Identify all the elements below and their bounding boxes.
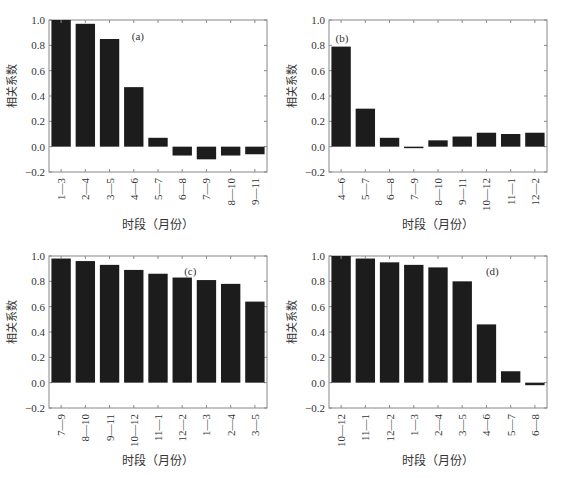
y-tick-label: 0.6 (31, 301, 45, 313)
bar (477, 133, 496, 147)
y-tick-label: 1.0 (31, 14, 45, 26)
chart-panel-b: 1.00.80.60.40.20.0−0.24—65—76—87—98—109—… (280, 0, 561, 240)
bar (356, 109, 375, 147)
y-tick-label: 0.4 (31, 326, 45, 338)
bar (173, 278, 192, 383)
x-tick-label: 4—6 (128, 178, 140, 201)
bar (356, 259, 375, 383)
y-tick-label: 0.8 (311, 275, 325, 287)
x-tick-label: 11—1 (152, 414, 164, 441)
x-tick-label: 4—6 (335, 178, 347, 201)
bar (148, 138, 167, 147)
x-tick-label: 9—11 (104, 414, 116, 441)
y-tick-label: −0.2 (305, 166, 325, 178)
chart-panel-c: 1.00.80.60.40.20.0−0.27—98—109—1110—1211… (0, 236, 280, 478)
panel-label: (c) (184, 265, 197, 278)
x-tick-label: 7—9 (200, 178, 212, 201)
bar (477, 324, 496, 382)
y-tick-label: 0.4 (311, 90, 325, 102)
x-tick-label: 2—4 (79, 178, 91, 201)
x-tick-label: 12—2 (176, 414, 188, 442)
bar (453, 137, 472, 147)
y-tick-label: 1.0 (311, 14, 325, 26)
y-tick-label: 1.0 (311, 250, 325, 262)
y-axis-label: 相关系数 (285, 64, 298, 108)
y-tick-label: 0.8 (311, 39, 325, 51)
x-tick-label: 12—2 (529, 178, 541, 206)
bar (245, 147, 264, 155)
x-tick-label: 1—3 (200, 414, 212, 437)
x-tick-label: 1—3 (408, 414, 420, 437)
x-tick-label: 8—10 (432, 178, 444, 206)
x-tick-label: 11—1 (359, 414, 371, 441)
bar (331, 47, 350, 147)
bar (525, 383, 544, 386)
x-tick-label: 9—11 (249, 178, 261, 205)
x-tick-label: 8—10 (79, 414, 91, 442)
bar (51, 20, 70, 147)
bar (221, 147, 240, 156)
bar-chart-c: 1.00.80.60.40.20.0−0.27—98—109—1110—1211… (0, 236, 280, 478)
y-tick-label: 0.6 (311, 65, 325, 77)
panel-label: (b) (336, 32, 349, 45)
bar (100, 265, 119, 383)
bar (221, 284, 240, 383)
y-axis-label: 相关系数 (285, 300, 298, 344)
x-tick-label: 9—11 (456, 178, 468, 205)
x-tick-label: 7—9 (55, 414, 67, 437)
x-tick-label: 10—12 (128, 414, 140, 447)
x-tick-label: 6—8 (529, 414, 541, 437)
bar (501, 134, 520, 147)
y-tick-label: 0.2 (311, 351, 325, 363)
y-tick-label: 0.6 (311, 301, 325, 313)
y-tick-label: 0.2 (31, 115, 45, 127)
bar (380, 262, 399, 382)
bar (428, 267, 447, 382)
bar (76, 261, 95, 383)
x-axis-label: 时段（月份） (402, 217, 474, 232)
bar-chart-a: 1.00.80.60.40.20.0−0.21—32—43—54—65—76—8… (0, 0, 280, 240)
chart-panel-d: 1.00.80.60.40.20.0−0.210—1211—112—21—32—… (280, 236, 561, 478)
bar (173, 147, 192, 156)
y-tick-label: 0.0 (31, 141, 45, 153)
x-tick-label: 1—3 (55, 178, 67, 201)
y-tick-label: −0.2 (305, 402, 325, 414)
y-tick-label: 0.6 (31, 65, 45, 77)
x-axis-label: 时段（月份） (122, 217, 194, 232)
bar (453, 281, 472, 382)
x-tick-label: 5—7 (505, 414, 517, 437)
bar (148, 274, 167, 383)
x-tick-label: 3—5 (104, 178, 116, 201)
y-tick-label: 0.2 (31, 351, 45, 363)
y-tick-label: 0.8 (31, 275, 45, 287)
panel-label: (d) (486, 265, 499, 278)
chart-panel-a: 1.00.80.60.40.20.0−0.21—32—43—54—65—76—8… (0, 0, 280, 240)
x-axis-label: 时段（月份） (122, 453, 194, 468)
x-tick-label: 7—9 (408, 178, 420, 201)
bar (245, 302, 264, 383)
y-tick-label: 0.0 (31, 377, 45, 389)
bar (525, 133, 544, 147)
y-tick-label: −0.2 (25, 402, 45, 414)
bar-chart-b: 1.00.80.60.40.20.0−0.24—65—76—87—98—109—… (280, 0, 561, 240)
x-tick-label: 6—8 (384, 178, 396, 201)
bar (331, 256, 350, 383)
bar (124, 87, 143, 147)
x-tick-label: 2—4 (225, 414, 237, 437)
bar (501, 371, 520, 382)
bar (51, 259, 70, 383)
panel-label: (a) (132, 30, 145, 43)
x-tick-label: 2—4 (432, 414, 444, 437)
bar-chart-d: 1.00.80.60.40.20.0−0.210—1211—112—21—32—… (280, 236, 561, 478)
y-tick-label: 0.4 (311, 326, 325, 338)
x-tick-label: 4—6 (480, 414, 492, 437)
y-axis-label: 相关系数 (5, 300, 18, 344)
bar (404, 147, 423, 149)
y-tick-label: 0.2 (311, 115, 325, 127)
y-axis-label: 相关系数 (5, 64, 18, 108)
x-tick-label: 3—5 (456, 414, 468, 437)
x-tick-label: 11—1 (505, 178, 517, 205)
y-tick-label: 0.4 (31, 90, 45, 102)
y-tick-label: 0.8 (31, 39, 45, 51)
x-tick-label: 8—10 (225, 178, 237, 206)
